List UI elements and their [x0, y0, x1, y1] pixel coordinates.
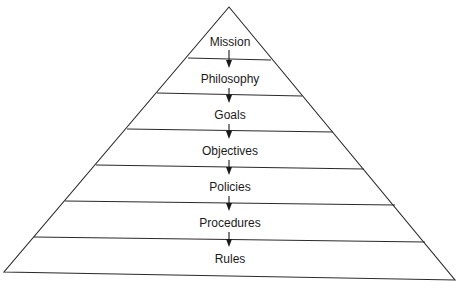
level-label-objectives: Objectives: [202, 144, 258, 158]
arrow-down-icon: [226, 160, 232, 175]
level-label-rules: Rules: [215, 252, 246, 266]
pyramid-diagram: Mission Philosophy Goals Objectives Poli…: [0, 0, 461, 286]
arrow-down-icon: [226, 124, 232, 139]
level-label-goals: Goals: [214, 108, 245, 122]
level-label-policies: Policies: [209, 180, 250, 194]
level-label-mission: Mission: [210, 35, 251, 49]
level-label-philosophy: Philosophy: [201, 72, 260, 86]
arrow-down-icon: [226, 196, 232, 211]
arrow-down-icon: [226, 88, 232, 103]
level-label-procedures: Procedures: [199, 216, 260, 230]
arrow-down-icon: [226, 232, 232, 247]
